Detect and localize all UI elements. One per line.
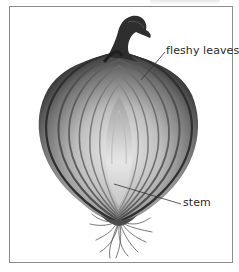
label-fleshy-leaves: fleshy leaves (166, 44, 239, 57)
onion-illustration (0, 0, 239, 272)
label-stem: stem (183, 196, 211, 209)
neck (104, 16, 151, 62)
bulb (39, 50, 198, 226)
